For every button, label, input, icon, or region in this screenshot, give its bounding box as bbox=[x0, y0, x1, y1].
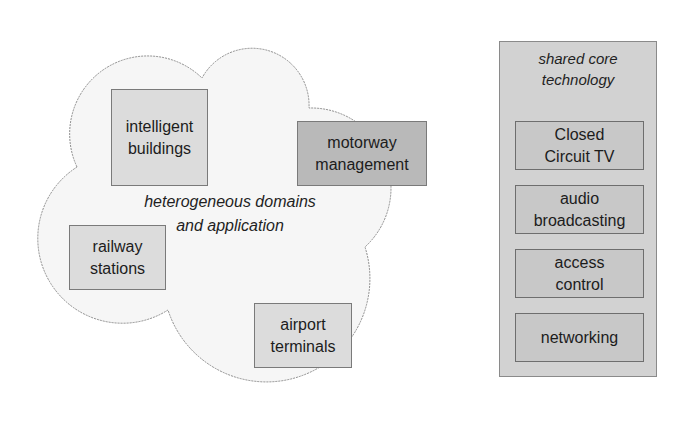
core-title-line: technology bbox=[500, 69, 656, 90]
domain-label-line: terminals bbox=[271, 336, 336, 358]
domain-label-line: intelligent bbox=[126, 116, 194, 138]
core-item-line: Closed bbox=[555, 124, 605, 146]
core-item-line: control bbox=[555, 274, 603, 296]
domain-label-line: motorway bbox=[327, 132, 396, 154]
core-item-audio-broadcasting: audio broadcasting bbox=[515, 185, 644, 234]
core-title-line: shared core bbox=[500, 48, 656, 69]
core-item-line: access bbox=[555, 252, 605, 274]
core-item-line: audio bbox=[560, 188, 599, 210]
core-item-line: Circuit TV bbox=[545, 146, 615, 168]
domain-label-line: management bbox=[315, 154, 408, 176]
domain-label-line: railway bbox=[93, 236, 143, 258]
core-item-access-control: access control bbox=[515, 249, 644, 298]
core-item-line: networking bbox=[541, 327, 618, 349]
cloud-label-line: heterogeneous domains bbox=[130, 190, 330, 214]
cloud-label-line: and application bbox=[130, 214, 330, 238]
core-title: shared core technology bbox=[500, 48, 656, 90]
domain-airport-terminals: airport terminals bbox=[254, 303, 352, 368]
core-item-networking: networking bbox=[515, 313, 644, 362]
domain-label-line: buildings bbox=[128, 138, 191, 160]
domain-motorway-management: motorway management bbox=[297, 121, 427, 186]
domain-label-line: airport bbox=[280, 314, 325, 336]
domain-intelligent-buildings: intelligent buildings bbox=[111, 89, 208, 186]
domain-label-line: stations bbox=[90, 258, 145, 280]
core-item-cctv: Closed Circuit TV bbox=[515, 121, 644, 170]
core-item-line: broadcasting bbox=[534, 210, 626, 232]
cloud-label: heterogeneous domains and application bbox=[130, 190, 330, 238]
